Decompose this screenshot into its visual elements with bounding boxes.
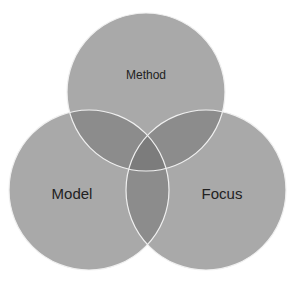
- venn-diagram: Method Model Focus: [0, 0, 291, 288]
- label-focus: Focus: [202, 185, 243, 202]
- label-model: Model: [52, 185, 93, 202]
- label-method: Method: [126, 68, 166, 82]
